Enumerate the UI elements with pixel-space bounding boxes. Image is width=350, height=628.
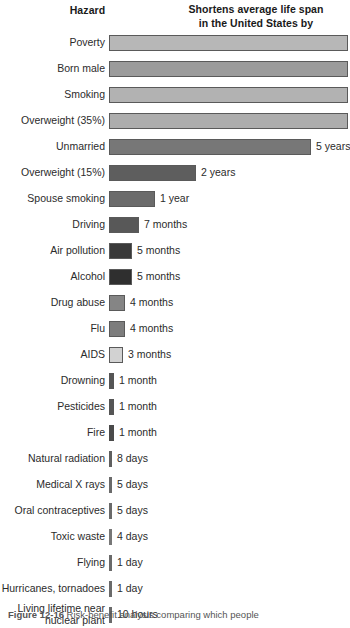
bar-value-label: 1 year bbox=[160, 193, 189, 205]
bar bbox=[109, 139, 311, 155]
chart-row: Flying1 day bbox=[0, 550, 348, 576]
row-label: Air pollution bbox=[0, 245, 105, 257]
chart-row: Toxic waste4 days bbox=[0, 524, 348, 550]
row-label: Pesticides bbox=[0, 401, 105, 413]
bar-value-label: 4 days bbox=[117, 531, 148, 543]
chart-row: Overweight (35%) bbox=[0, 108, 348, 134]
chart-row: Drowning1 month bbox=[0, 368, 348, 394]
bar-value-label: 5 months bbox=[137, 245, 180, 257]
row-label: Drowning bbox=[0, 375, 105, 387]
figure-caption: Figure 12-16 Risk-benefit analysis compa… bbox=[8, 609, 344, 621]
chart-row: Fire1 month bbox=[0, 420, 348, 446]
figure-number: Figure 12-16 bbox=[8, 609, 64, 620]
bar-value-label: 3 months bbox=[128, 349, 171, 361]
bar-value-label: 7 months bbox=[144, 219, 187, 231]
row-label: Alcohol bbox=[0, 271, 105, 283]
row-label: Flying bbox=[0, 557, 105, 569]
row-label: Spouse smoking bbox=[0, 193, 105, 205]
chart-row: Pesticides1 month bbox=[0, 394, 348, 420]
row-label: Unmarried bbox=[0, 141, 105, 153]
bar bbox=[109, 87, 348, 103]
row-label: Poverty bbox=[0, 37, 105, 49]
bar bbox=[109, 529, 112, 545]
column-header-lifespan-line2: in the United States by bbox=[166, 17, 346, 31]
chart-row: AIDS3 months bbox=[0, 342, 348, 368]
chart-row: Overweight (15%)2 years bbox=[0, 160, 348, 186]
row-label: Overweight (15%) bbox=[0, 167, 105, 179]
bar bbox=[109, 191, 155, 207]
bar bbox=[109, 555, 112, 571]
bar bbox=[109, 217, 139, 233]
bar bbox=[109, 477, 112, 493]
chart-row: Drug abuse4 months bbox=[0, 290, 348, 316]
bar bbox=[109, 35, 348, 51]
bar-value-label: 2 years bbox=[201, 167, 235, 179]
chart-row: Poverty bbox=[0, 30, 348, 56]
chart-row: Flu4 months bbox=[0, 316, 348, 342]
chart-row: Spouse smoking1 year bbox=[0, 186, 348, 212]
row-label: Overweight (35%) bbox=[0, 115, 105, 127]
bar-value-label: 5 days bbox=[117, 505, 148, 517]
bar-value-label: 1 day bbox=[117, 557, 143, 569]
row-label: Born male bbox=[0, 63, 105, 75]
bar bbox=[109, 425, 114, 441]
chart-row: Oral contraceptives5 days bbox=[0, 498, 348, 524]
bar bbox=[109, 113, 348, 129]
row-label: Hurricanes, tornadoes bbox=[0, 583, 105, 595]
row-label: Driving bbox=[0, 219, 105, 231]
row-label: Flu bbox=[0, 323, 105, 335]
bar bbox=[109, 451, 112, 467]
bar-value-label: 1 month bbox=[119, 427, 157, 439]
chart-rows: PovertyBorn maleSmokingOverweight (35%)U… bbox=[0, 30, 348, 628]
column-header-lifespan-line1: Shortens average life span bbox=[166, 3, 346, 17]
row-label: Natural radiation bbox=[0, 453, 105, 465]
bar bbox=[109, 373, 114, 389]
chart-row: Driving7 months bbox=[0, 212, 348, 238]
row-label: Drug abuse bbox=[0, 297, 105, 309]
column-header-lifespan: Shortens average life span in the United… bbox=[166, 3, 346, 30]
chart-row: Medical X rays5 days bbox=[0, 472, 348, 498]
bar bbox=[109, 243, 132, 259]
chart-row: Natural radiation8 days bbox=[0, 446, 348, 472]
bar bbox=[109, 321, 125, 337]
bar bbox=[109, 503, 112, 519]
bar-value-label: 1 month bbox=[119, 375, 157, 387]
row-label: Toxic waste bbox=[0, 531, 105, 543]
bar bbox=[109, 269, 132, 285]
chart-row: Alcohol5 months bbox=[0, 264, 348, 290]
bar bbox=[109, 165, 196, 181]
row-label: AIDS bbox=[0, 349, 105, 361]
bar-value-label: 4 months bbox=[130, 297, 173, 309]
chart-row: Born male bbox=[0, 56, 348, 82]
chart-row: Hurricanes, tornadoes1 day bbox=[0, 576, 348, 602]
row-label: Medical X rays bbox=[0, 479, 105, 491]
bar-value-label: 5 days bbox=[117, 479, 148, 491]
bar bbox=[109, 295, 125, 311]
bar-value-label: 5 months bbox=[137, 271, 180, 283]
column-header-hazard: Hazard bbox=[0, 4, 175, 16]
row-label: Fire bbox=[0, 427, 105, 439]
bar-value-label: 5 years bbox=[316, 141, 350, 153]
bar-value-label: 1 month bbox=[119, 401, 157, 413]
bar bbox=[109, 581, 112, 597]
bar bbox=[109, 347, 123, 363]
row-label: Oral contraceptives bbox=[0, 505, 105, 517]
chart-header: Hazard Shortens average life span in the… bbox=[0, 0, 348, 34]
chart-row: Unmarried5 years bbox=[0, 134, 348, 160]
bar-value-label: 1 day bbox=[117, 583, 143, 595]
chart-row: Smoking bbox=[0, 82, 348, 108]
bar bbox=[109, 61, 348, 77]
bar-value-label: 4 months bbox=[130, 323, 173, 335]
chart-row: Air pollution5 months bbox=[0, 238, 348, 264]
bar-value-label: 8 days bbox=[117, 453, 148, 465]
figure-caption-text: Risk-benefit analysis comparing which pe… bbox=[67, 609, 259, 620]
bar bbox=[109, 399, 114, 415]
row-label: Smoking bbox=[0, 89, 105, 101]
